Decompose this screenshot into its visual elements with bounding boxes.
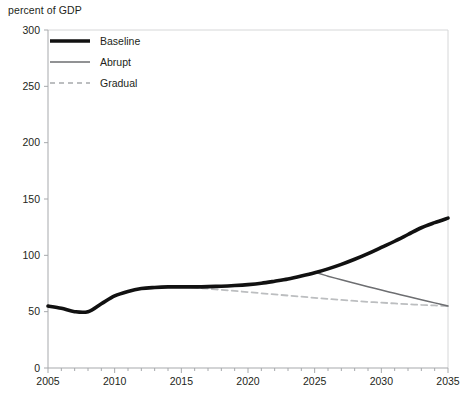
y-tick-label: 0 (34, 362, 40, 374)
y-tick-label: 200 (22, 136, 40, 148)
y-tick-label: 50 (28, 305, 40, 317)
x-axis-ticks: 2005201020152020202520302035 (36, 368, 460, 387)
x-tick-label: 2035 (436, 375, 460, 387)
x-tick-label: 2025 (303, 375, 327, 387)
series-line-baseline (48, 218, 448, 312)
legend-label-gradual: Gradual (100, 77, 137, 89)
x-tick-label: 2010 (103, 375, 127, 387)
x-tick-label: 2020 (236, 375, 260, 387)
x-tick-label: 2030 (370, 375, 394, 387)
y-tick-label: 250 (22, 80, 40, 92)
y-tick-label: 300 (22, 24, 40, 36)
line-chart-plot: 050100150200250300 200520102015202020252… (0, 0, 473, 402)
x-tick-label: 2015 (170, 375, 194, 387)
legend-label-baseline: Baseline (100, 35, 140, 47)
y-axis-ticks: 050100150200250300 (22, 24, 48, 374)
data-series-group (48, 218, 448, 312)
legend-label-abrupt: Abrupt (100, 56, 131, 68)
x-tick-label: 2005 (36, 375, 60, 387)
y-tick-label: 100 (22, 249, 40, 261)
y-tick-label: 150 (22, 193, 40, 205)
chart-container: percent of GDP 050100150200250300 200520… (0, 0, 473, 402)
chart-legend: BaselineAbruptGradual (50, 35, 140, 89)
